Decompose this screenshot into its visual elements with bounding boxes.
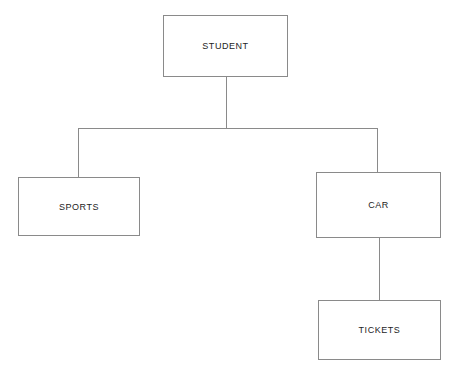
node-student-label: STUDENT: [202, 41, 248, 51]
node-car[interactable]: CAR: [316, 172, 441, 238]
node-sports-label: SPORTS: [59, 202, 99, 212]
node-student[interactable]: STUDENT: [163, 15, 288, 77]
node-sports[interactable]: SPORTS: [18, 177, 140, 236]
node-car-label: CAR: [368, 200, 389, 210]
node-tickets-label: TICKETS: [359, 325, 401, 335]
diagram-canvas: STUDENT SPORTS CAR TICKETS: [0, 0, 457, 390]
node-tickets[interactable]: TICKETS: [318, 300, 441, 360]
